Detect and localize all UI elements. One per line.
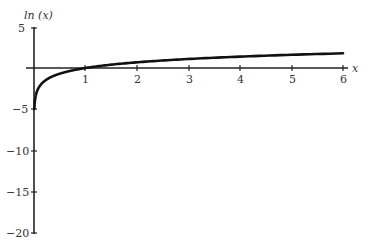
y-tick-label: −10 bbox=[6, 145, 29, 158]
x-tick-label: 1 bbox=[82, 73, 89, 86]
y-tick-label: −20 bbox=[6, 227, 29, 240]
x-tick-label: 2 bbox=[134, 73, 141, 86]
y-tick-label: 5 bbox=[18, 22, 25, 35]
y-tick-label: −5 bbox=[12, 103, 28, 116]
y-tick-label: −15 bbox=[6, 186, 29, 199]
x-tick-label: 5 bbox=[289, 73, 296, 86]
x-tick-label: 4 bbox=[237, 73, 244, 86]
x-tick-label: 6 bbox=[340, 73, 347, 86]
chart: 5 −5 −10 −15 −20 1 2 3 4 5 6 ln (x) x bbox=[0, 0, 370, 251]
x-axis-title: x bbox=[352, 62, 359, 75]
x-tick-label: 3 bbox=[186, 73, 193, 86]
y-axis-title: ln (x) bbox=[24, 9, 53, 22]
